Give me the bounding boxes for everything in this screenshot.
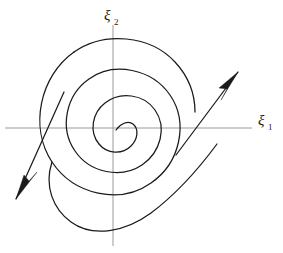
y-axis-label-subscript: 2 xyxy=(114,17,119,27)
y-axis-label: ξ xyxy=(104,7,111,23)
figure-background xyxy=(0,0,283,253)
phase-portrait-figure: ξ 1 ξ 2 xyxy=(0,0,283,253)
x-axis-label-subscript: 1 xyxy=(268,122,273,132)
x-axis-label: ξ xyxy=(258,112,265,128)
